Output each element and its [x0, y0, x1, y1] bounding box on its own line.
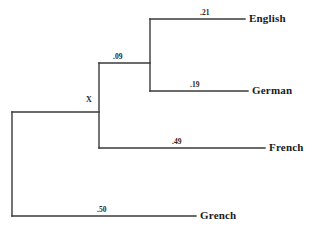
tree-branches-canvas [0, 0, 319, 231]
taxon-label-german: German [252, 85, 292, 96]
branch-value-german: .19 [190, 81, 199, 89]
branch-value-french: .49 [172, 138, 181, 146]
branch-value-clade: .09 [113, 53, 122, 61]
phylogenetic-tree-figure: English German French Grench X .21 .19 .… [0, 0, 319, 231]
branch-value-english: .21 [200, 9, 209, 17]
taxon-label-grench: Grench [200, 210, 236, 221]
internal-node-label-x: X [86, 96, 92, 104]
taxon-label-french: French [269, 142, 304, 153]
branch-value-grench: .50 [97, 206, 106, 214]
taxon-label-english: English [249, 13, 286, 24]
